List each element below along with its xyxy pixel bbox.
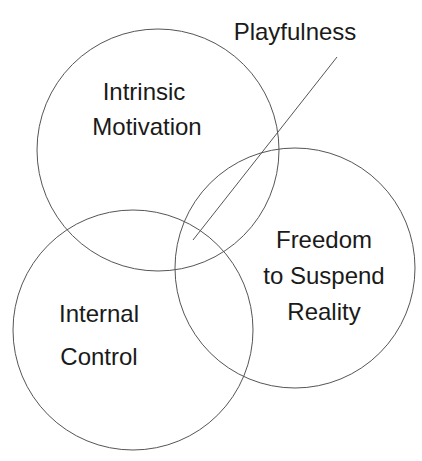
label-freedom-line1: Freedom	[276, 226, 372, 253]
playfulness-callout-line	[193, 57, 337, 240]
label-playfulness: Playfulness	[234, 18, 357, 45]
label-internal-line1: Internal	[59, 300, 139, 327]
label-freedom-line3: Reality	[287, 298, 360, 325]
label-freedom-line2: to Suspend	[263, 262, 384, 289]
venn-diagram: Playfulness Intrinsic Motivation Interna…	[0, 0, 422, 461]
label-intrinsic-line1: Intrinsic	[103, 78, 186, 105]
circle-intrinsic-motivation	[37, 29, 279, 271]
circle-internal-control	[13, 210, 253, 450]
label-internal-line2: Control	[60, 343, 137, 370]
label-intrinsic-line2: Motivation	[92, 113, 201, 140]
